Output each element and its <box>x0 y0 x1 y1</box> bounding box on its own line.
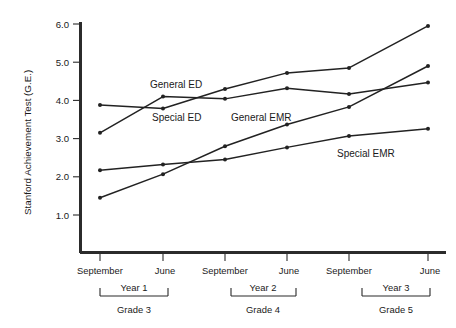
data-point <box>161 106 165 110</box>
y-tick-label: 6.0 <box>56 19 69 30</box>
chart-container: Stanford Achievement Test (G.E.) 6.0 5.0… <box>0 0 456 328</box>
grade-labels: Grade 3 Grade 4 Grade 5 <box>117 304 413 315</box>
year-label-1: Year 1 <box>121 282 148 293</box>
data-point <box>98 103 102 107</box>
data-point <box>347 105 351 109</box>
data-point <box>223 97 227 101</box>
data-point <box>285 71 289 75</box>
x-tick-label-jun-1: June <box>155 265 175 276</box>
series-label-general-emr: General EMR <box>231 112 292 123</box>
x-tick-label-jun-2: June <box>279 265 299 276</box>
data-point <box>161 163 165 167</box>
data-point <box>223 87 227 91</box>
series-label-general-ed: General ED <box>150 79 202 90</box>
data-point <box>223 158 227 162</box>
x-axis-ticks <box>100 254 428 261</box>
series-line <box>100 26 428 109</box>
series-general-ed <box>98 24 430 111</box>
y-tick-label: 2.0 <box>56 171 69 182</box>
x-axis-tick-labels: September June September June September … <box>77 265 440 276</box>
grade-label-2: Grade 4 <box>246 304 280 315</box>
year-brackets: Year 1 Year 2 Year 3 <box>100 282 430 296</box>
x-tick-label-sep-2: September <box>202 265 248 276</box>
data-point <box>285 86 289 90</box>
series-general-emr <box>98 64 430 200</box>
x-tick-label-sep-3: September <box>326 265 372 276</box>
data-point <box>98 131 102 135</box>
data-point <box>223 144 227 148</box>
data-point <box>161 172 165 176</box>
y-tick-label: 3.0 <box>56 133 69 144</box>
data-point <box>426 64 430 68</box>
data-point <box>98 168 102 172</box>
y-tick-label: 5.0 <box>56 57 69 68</box>
grade-label-3: Grade 5 <box>379 304 413 315</box>
year-label-2: Year 2 <box>250 282 277 293</box>
data-point <box>285 122 289 126</box>
data-point <box>426 127 430 131</box>
data-point <box>161 95 165 99</box>
data-point <box>426 80 430 84</box>
data-point <box>426 24 430 28</box>
grade-label-1: Grade 3 <box>117 304 151 315</box>
data-point <box>285 145 289 149</box>
x-tick-label-jun-3: June <box>420 265 440 276</box>
series-label-special-ed: Special ED <box>152 112 201 123</box>
data-point <box>347 92 351 96</box>
y-axis-ticks: 6.0 5.0 4.0 3.0 2.0 1.0 <box>56 19 80 221</box>
y-tick-label: 1.0 <box>56 210 69 221</box>
x-tick-label-sep-1: September <box>77 265 123 276</box>
y-axis-title: Stanford Achievement Test (G.E.) <box>22 70 33 215</box>
line-chart: Stanford Achievement Test (G.E.) 6.0 5.0… <box>0 0 456 328</box>
series-label-special-emr: Special EMR <box>337 148 395 159</box>
data-point <box>98 196 102 200</box>
y-tick-label: 4.0 <box>56 95 69 106</box>
data-point <box>347 66 351 70</box>
data-point <box>347 134 351 138</box>
year-label-3: Year 3 <box>383 282 410 293</box>
